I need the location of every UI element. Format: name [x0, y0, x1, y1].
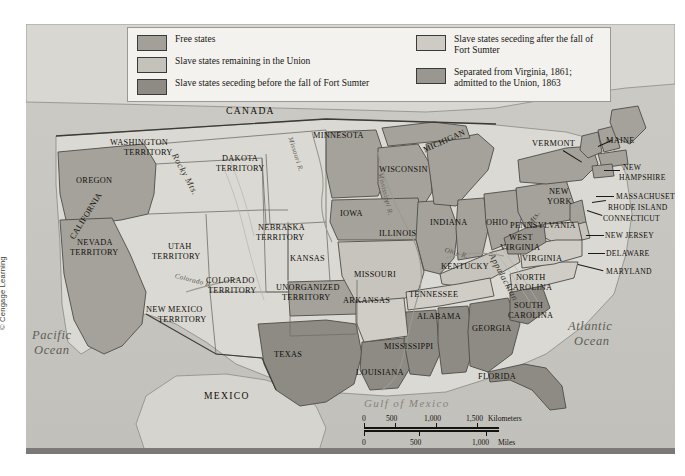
label-mexico: MEXICO — [204, 391, 250, 401]
scale-rule-bottom — [364, 430, 499, 432]
label-unorganized-territory-line2: TERRITORY — [282, 293, 331, 303]
label-missouri: MISSOURI — [354, 270, 396, 280]
scale-mi-500: 500 — [410, 438, 421, 447]
label-dakota-territory-line2: TERRITORY — [216, 164, 265, 174]
scale-mi-0: 0 — [362, 438, 366, 447]
label-iowa: IOWA — [340, 209, 363, 219]
slave-union-swatch — [137, 57, 167, 73]
label-new-hampshire-line2: HAMPSHIRE — [619, 173, 666, 183]
label-unorganized-territory-line1: UNORGANIZED — [276, 283, 340, 293]
label-maine: MAINE — [606, 136, 635, 146]
west-virginia-swatch — [416, 68, 446, 84]
label-north-carolina-line2: CAROLINA — [507, 283, 552, 293]
label-new-jersey: NEW JERSEY — [605, 231, 654, 241]
label-ohio: OHIO — [486, 218, 508, 228]
seceding-before-swatch — [137, 79, 167, 95]
label-colorado-territory-line2: TERRITORY — [208, 286, 257, 296]
legend-label-seceding-before: Slave states seceding before the fall of… — [175, 78, 369, 89]
free-states-swatch — [137, 35, 167, 51]
label-virginia: VIRGINIA — [522, 254, 562, 264]
legend-label-free-states: Free states — [175, 34, 215, 45]
label-oregon: OREGON — [76, 176, 112, 186]
label-indiana: INDIANA — [430, 218, 468, 228]
label-new-york-line1: NEW — [549, 187, 569, 197]
map-figure: Free states Slave states remaining in th… — [0, 0, 685, 476]
scale-tick-km-0 — [364, 423, 365, 428]
map-legend: Free states Slave states remaining in th… — [127, 27, 611, 102]
leader-massachusetts — [596, 196, 614, 197]
scale-tick-mi-500 — [419, 430, 420, 436]
label-texas: TEXAS — [274, 350, 302, 360]
legend-column-right: Slave states seceding after the fall of … — [416, 34, 606, 93]
label-new-mexico-territory-line2: TERRITORY — [158, 315, 207, 325]
label-west-virginia-line2: VIRGINIA — [500, 243, 540, 253]
label-south-carolina-line1: SOUTH — [514, 301, 543, 311]
legend-item-seceding-after: Slave states seceding after the fall of … — [416, 34, 606, 55]
label-mississippi: MISSISSIPPI — [384, 342, 433, 352]
label-arkansas: ARKANSAS — [343, 296, 390, 306]
label-gulf-of-mexico: Gulf of Mexico — [364, 399, 450, 409]
label-pacific-ocean-line2: Ocean — [34, 343, 70, 357]
label-wisconsin: WISCONSIN — [379, 165, 428, 175]
label-vermont: VERMONT — [532, 139, 575, 149]
label-atlantic-ocean-line2: Ocean — [574, 334, 610, 348]
label-new-mexico-territory-line1: NEW MEXICO — [146, 305, 203, 315]
legend-item-slave-union: Slave states remaining in the Union — [137, 56, 387, 73]
legend-label-seceding-after: Slave states seceding after the fall of … — [454, 34, 606, 55]
label-alabama: ALABAMA — [417, 312, 461, 322]
label-west-virginia-line1: WEST — [509, 233, 533, 243]
label-nevada-territory-line2: TERRITORY — [70, 248, 119, 258]
scale-rule-top — [364, 427, 499, 429]
leader-new-jersey — [586, 235, 604, 236]
label-nevada-territory-line1: NEVADA — [77, 238, 113, 248]
label-utah-territory-line2: TERRITORY — [152, 252, 201, 262]
label-new-hampshire-line1: NEW — [623, 163, 641, 173]
label-maryland: MARYLAND — [606, 267, 652, 277]
label-nebraska-territory-line1: NEBRASKA — [258, 223, 305, 233]
seceding-after-swatch — [416, 35, 446, 51]
label-kansas: KANSAS — [290, 254, 325, 264]
label-south-carolina-line2: CAROLINA — [508, 311, 553, 321]
label-atlantic-ocean-line1: Atlantic — [568, 319, 612, 333]
leader-new-hampshire — [604, 170, 620, 171]
map-scale-bar: 0 500 1,000 1,500 Kilometers 0 500 1,000… — [364, 414, 549, 450]
map-plate: Free states Slave states remaining in th… — [26, 24, 675, 454]
label-tennessee: TENNESSEE — [409, 290, 458, 300]
legend-label-west-virginia: Separated from Virginia, 1861; admitted … — [454, 67, 606, 88]
scale-tick-km-1000 — [436, 423, 437, 428]
legend-item-seceding-before: Slave states seceding before the fall of… — [137, 78, 387, 95]
scale-mi-unit: Miles — [498, 438, 515, 447]
label-minnesota: MINNESOTA — [313, 131, 364, 141]
scale-km-0: 0 — [362, 414, 366, 423]
scale-km-500: 500 — [386, 414, 397, 423]
scale-mi-1000: 1,000 — [472, 438, 489, 447]
label-north-carolina-line1: NORTH — [516, 273, 546, 283]
label-rhode-island: RHODE ISLAND — [608, 203, 668, 213]
scale-tick-km-1500 — [477, 423, 478, 428]
legend-column-left: Free states Slave states remaining in th… — [137, 34, 387, 100]
label-kentucky: KENTUCKY — [441, 262, 489, 272]
label-georgia: GEORGIA — [472, 324, 511, 334]
label-washington-territory-line2: TERRITORY — [124, 148, 173, 158]
scale-tick-km-500 — [395, 423, 396, 428]
scale-tick-mi-1000 — [486, 430, 487, 436]
label-massachusetts: MASSACHUSETTS — [616, 192, 675, 202]
leader-delaware — [588, 253, 605, 254]
label-washington-territory-line1: WASHINGTON — [110, 138, 168, 148]
scale-km-unit: Kilometers — [488, 414, 522, 423]
label-dakota-territory-line1: DAKOTA — [222, 154, 258, 164]
legend-label-slave-union: Slave states remaining in the Union — [175, 56, 310, 67]
label-nebraska-territory-line2: TERRITORY — [256, 233, 305, 243]
label-new-york-line2: YORK — [547, 197, 572, 207]
label-utah-territory-line1: UTAH — [168, 242, 192, 252]
label-florida: FLORIDA — [478, 372, 516, 382]
label-illinois: ILLINOIS — [379, 229, 416, 239]
label-connecticut: CONNECTICUT — [603, 214, 660, 224]
plate-bottom-rule — [26, 448, 675, 454]
label-colorado-territory-line1: COLORADO — [206, 276, 255, 286]
label-pennsylvania: PENNSYLVANIA — [510, 221, 576, 231]
legend-item-west-virginia: Separated from Virginia, 1861; admitted … — [416, 67, 606, 88]
label-delaware: DELAWARE — [606, 249, 650, 259]
legend-item-free-states: Free states — [137, 34, 387, 51]
scale-km-1500: 1,500 — [466, 414, 483, 423]
